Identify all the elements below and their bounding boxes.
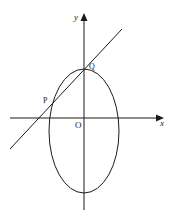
x-axis-label: x [159,118,164,128]
origin-label: O [75,120,82,130]
y-axis-label: y [73,12,78,22]
point-p-label: P [43,96,48,105]
diagram-canvas: y x O P Q [0,0,171,221]
line-pq [10,29,122,149]
point-q-label: Q [89,62,95,71]
y-axis-arrow-icon [81,13,88,21]
